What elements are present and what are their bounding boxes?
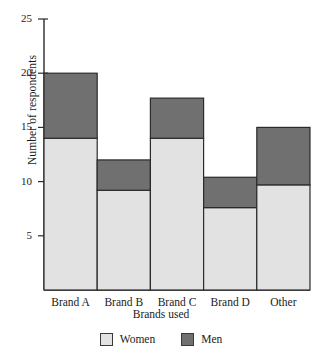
bar-segment-men <box>257 127 310 184</box>
legend-label: Men <box>201 334 222 346</box>
chart-legend: WomenMen <box>0 333 322 346</box>
bar-segment-women <box>44 138 97 290</box>
bar-segment-women <box>150 138 203 290</box>
y-axis-tick-label: 20 <box>8 67 32 78</box>
bar-segment-men <box>44 73 97 138</box>
bar-segment-women <box>97 190 150 290</box>
x-axis-label: Brands used <box>0 309 322 321</box>
legend-item: Women <box>100 333 155 346</box>
bar-segment-men <box>97 160 150 190</box>
bar-segment-men <box>204 177 257 207</box>
bar-chart: Number of respondents 510152025 Brand AB… <box>0 0 322 359</box>
y-axis-tick-label: 5 <box>8 230 32 241</box>
y-axis-tick-label: 10 <box>8 176 32 187</box>
y-axis-label: Number of respondents <box>26 30 46 190</box>
bar-segment-men <box>150 98 203 138</box>
legend-label: Women <box>120 334 155 346</box>
y-axis-tick-label: 15 <box>8 121 32 132</box>
x-axis-category-label: Other <box>251 297 316 309</box>
legend-swatch-icon <box>181 333 194 346</box>
y-axis-tick-label: 25 <box>8 13 32 24</box>
bar-segment-women <box>257 185 310 290</box>
legend-item: Men <box>181 333 222 346</box>
bar-segment-women <box>204 208 257 290</box>
legend-swatch-icon <box>100 333 113 346</box>
